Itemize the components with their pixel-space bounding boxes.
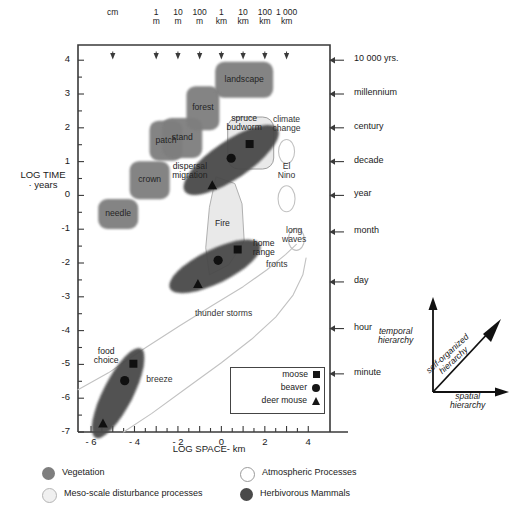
time-scale-label: minute: [354, 368, 381, 377]
y-tick-label: -6: [46, 392, 70, 402]
mammal-group-label: homerange: [253, 239, 275, 257]
top-scale-arrow-icon: [154, 53, 159, 60]
y-tick-label: 1: [46, 156, 70, 166]
marker-moose-square-icon: [129, 360, 137, 368]
x-axis-title: LOG SPACE- km: [144, 444, 274, 454]
vegetation-label: landscape: [225, 75, 264, 84]
legend-row-deer-mouse: deer mouse: [231, 394, 324, 407]
y-tick-label: -3: [46, 291, 70, 301]
y-tick-label: -2: [46, 257, 70, 267]
time-scale-label: decade: [354, 156, 384, 165]
vegetation-label-line1: crown: [138, 176, 161, 185]
y-axis-title-line2: · years: [12, 180, 74, 190]
y-tick-label: -5: [46, 358, 70, 368]
category-label-mammals: Herbivorous Mammals: [260, 488, 350, 499]
fronts-label-line1: fronts: [266, 260, 288, 269]
spruce-budworm-label-line2: budworm: [227, 123, 262, 132]
top-scale-arrow-icon: [175, 53, 180, 60]
mammal-group-label-line2: choice: [94, 356, 119, 365]
long-waves-label: longwaves: [282, 226, 306, 244]
top-scale-arrow-icon: [284, 53, 289, 60]
y-tick-label: -4: [46, 325, 70, 335]
meso-swatch-icon: [42, 488, 57, 503]
category-label-meso: Meso-scale disturbance processes: [64, 488, 203, 499]
climate-change-label: climatechange: [272, 115, 300, 133]
time-scale-label: millennium: [354, 88, 397, 97]
thunder-storms-label: thunder storms: [195, 309, 252, 318]
fire-label: Fire: [215, 220, 230, 229]
scale-diagram-figure: cm1m10m100m1km10km100km1 000km 43210-1-2…: [0, 0, 510, 514]
climate-change-label-line2: change: [272, 124, 300, 133]
el-nino-label-line2: Nino: [278, 171, 296, 180]
legend-row-beaver: beaver: [231, 381, 324, 394]
marker-moose-square-icon: [246, 140, 254, 148]
top-scale-label-line2: km: [265, 17, 309, 26]
top-scale-arrow-icon: [241, 53, 246, 60]
y-tick-label: 0: [46, 189, 70, 199]
spatial-hierarchy-label: spatialhierarchy: [450, 392, 485, 411]
legend-label-moose: moose: [282, 370, 308, 379]
breeze-label-line1: breeze: [146, 375, 172, 384]
legend-label-deer-mouse: deer mouse: [262, 396, 307, 405]
category-label-atmospheric: Atmospheric Processes: [262, 467, 357, 478]
mammal-group-label-line2: range: [253, 248, 275, 257]
el-nino-label: ElNino: [278, 162, 296, 180]
top-scale-arrow-icon: [262, 53, 267, 60]
marker-moose-square-icon: [234, 245, 242, 253]
category-key-vegetation: Vegetation: [42, 467, 192, 480]
y-tick-label: -1: [46, 223, 70, 233]
top-scale-arrow-icon: [197, 53, 202, 60]
category-label-vegetation: Vegetation: [62, 467, 105, 478]
atmospheric-region: [278, 186, 295, 212]
spatial-hierarchy-arrowhead-icon: [495, 388, 509, 397]
atmospheric-swatch-icon: [240, 467, 255, 482]
y-tick-label: -7: [46, 426, 70, 436]
vegetation-label: forest: [192, 104, 214, 113]
legend-label-beaver: beaver: [281, 383, 307, 392]
vegetation-swatch-icon: [42, 467, 55, 480]
thunder-storms-label-line1: thunder storms: [195, 309, 252, 318]
mammals-swatch-icon: [240, 488, 253, 501]
marker-beaver-circle-icon: [227, 154, 236, 163]
y-axis-title: LOG TIME · years: [12, 170, 74, 190]
top-scale-arrow-icon: [110, 53, 115, 60]
y-tick-label: 3: [46, 88, 70, 98]
time-scale-label: hour: [354, 323, 372, 332]
spruce-budworm-label: sprucebudworm: [227, 114, 262, 132]
atmospheric-region: [279, 139, 295, 163]
vegetation-label-line1: landscape: [225, 75, 264, 84]
vegetation-label-line1: stand: [172, 133, 193, 142]
category-key-mammals: Herbivorous Mammals: [240, 488, 420, 501]
self-organized-hierarchy-arrowhead-icon: [483, 319, 501, 342]
temporal-hierarchy-label-line2: hierarchy: [378, 336, 413, 345]
top-scale-label: 1 000km: [265, 8, 309, 26]
vegetation-label: stand: [172, 133, 193, 142]
mammal-group-label-line2: migration: [172, 171, 207, 180]
marker-beaver-circle-icon: [120, 376, 129, 385]
y-tick-label: 2: [46, 122, 70, 132]
mammal-group-label: dispersalmigration: [172, 162, 207, 180]
top-scale-arrow-icon: [219, 53, 224, 60]
temporal-hierarchy-arrowhead-icon: [429, 297, 438, 310]
top-scale-label-line2: cm: [91, 8, 135, 17]
time-scale-label: year: [354, 189, 372, 198]
vegetation-label: crown: [138, 176, 161, 185]
top-scale-label: cm: [91, 8, 135, 17]
deer-mouse-triangle-icon: [312, 397, 320, 405]
x-tick-label: - 6: [71, 437, 111, 447]
category-key-atmospheric: Atmospheric Processes: [240, 467, 420, 482]
vegetation-label-line1: forest: [192, 104, 214, 113]
legend-row-moose: moose: [231, 368, 324, 381]
spatial-hierarchy-label-line2: hierarchy: [450, 401, 485, 410]
long-waves-label-line2: waves: [282, 235, 306, 244]
breeze-label: breeze: [146, 375, 172, 384]
fronts-label: fronts: [266, 260, 288, 269]
mammal-group-label: foodchoice: [94, 347, 119, 365]
category-key-meso: Meso-scale disturbance processes: [42, 488, 207, 503]
temporal-hierarchy-label: temporalhierarchy: [378, 327, 413, 346]
time-scale-label: day: [354, 276, 369, 285]
time-scale-label: century: [354, 122, 384, 131]
y-tick-label: 4: [46, 54, 70, 64]
vegetation-label: needle: [105, 209, 131, 218]
x-tick-label: 4: [288, 437, 328, 447]
